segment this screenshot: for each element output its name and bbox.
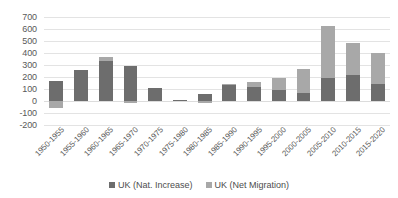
y-tick-label: 0 <box>32 97 37 106</box>
y-tick-label: -200 <box>19 121 37 130</box>
bar-group <box>49 17 63 125</box>
y-tick-label: 400 <box>22 49 37 58</box>
legend-label: UK (Net Migration) <box>215 180 290 190</box>
bar-group <box>148 17 162 125</box>
bar-segment <box>346 43 360 75</box>
bar-segment <box>247 82 261 87</box>
y-tick-label: 700 <box>22 13 37 22</box>
y-tick-label: 500 <box>22 37 37 46</box>
bar-segment <box>272 90 286 101</box>
bar-group <box>124 17 138 125</box>
plot-area <box>44 17 390 125</box>
x-axis-tick-labels: 1950-19551955-19601960-19651965-19701970… <box>44 126 390 172</box>
bar-segment <box>222 84 236 85</box>
bar-segment <box>198 101 212 103</box>
y-tick-label: 600 <box>22 25 37 34</box>
legend-label: UK (Nat. Increase) <box>118 180 193 190</box>
bar-segment <box>49 101 63 108</box>
square-swatch-icon <box>206 182 212 188</box>
bar-segment <box>198 94 212 101</box>
bar-group <box>173 17 187 125</box>
legend-item[interactable]: UK (Net Migration) <box>206 180 290 190</box>
bar-segment <box>148 88 162 101</box>
bar-group <box>272 17 286 125</box>
bar-group <box>346 17 360 125</box>
bar-segment <box>371 84 385 101</box>
bar-segment <box>297 93 311 101</box>
y-tick-label: 300 <box>22 61 37 70</box>
stacked-bar-chart: 7006005004003002001000-100-200 1950-1955… <box>0 0 398 198</box>
bar-segment <box>321 78 335 101</box>
bar-segment <box>49 81 63 101</box>
bar-group <box>321 17 335 125</box>
bar-segment <box>321 26 335 78</box>
bar-segment <box>99 61 113 101</box>
bar-group <box>99 17 113 125</box>
bar-group <box>198 17 212 125</box>
bar-series-container <box>44 17 390 125</box>
bar-segment <box>124 101 138 103</box>
square-swatch-icon <box>109 182 115 188</box>
y-tick-label: 100 <box>22 85 37 94</box>
y-tick-label: 200 <box>22 73 37 82</box>
bar-group <box>222 17 236 125</box>
y-tick-label: -100 <box>19 109 37 118</box>
bar-group <box>247 17 261 125</box>
bar-group <box>297 17 311 125</box>
bar-segment <box>371 53 385 84</box>
y-axis-tick-labels: 7006005004003002001000-100-200 <box>0 17 40 125</box>
bar-segment <box>173 100 187 101</box>
bar-segment <box>247 87 261 101</box>
bar-group <box>74 17 88 125</box>
bar-segment <box>272 78 286 90</box>
bar-segment <box>74 70 88 101</box>
bar-segment <box>297 69 311 93</box>
bar-segment <box>222 85 236 101</box>
chart-legend: UK (Nat. Increase)UK (Net Migration) <box>0 180 398 190</box>
bar-group <box>371 17 385 125</box>
bar-segment <box>124 66 138 101</box>
legend-item[interactable]: UK (Nat. Increase) <box>109 180 193 190</box>
bar-segment <box>99 57 113 62</box>
bar-segment <box>346 75 360 101</box>
